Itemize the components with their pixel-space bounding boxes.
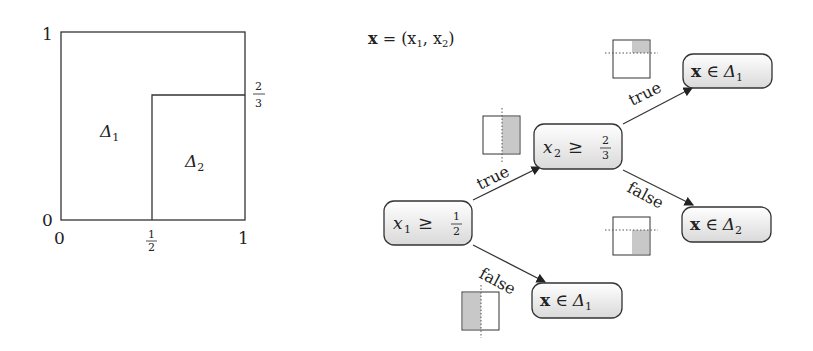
- partition-plot: 1 0 0 1 2 1 2 3 Δ1 Δ2: [42, 24, 265, 254]
- svg-text:x∈Δ2: x∈Δ2: [690, 214, 742, 237]
- svg-text:x: x: [393, 213, 403, 233]
- mini-region-top-right-icon: [605, 40, 658, 78]
- svg-text:1: 1: [453, 210, 460, 223]
- svg-text:x∈Δ1: x∈Δ1: [691, 61, 743, 84]
- svg-text:2: 2: [148, 241, 155, 254]
- svg-text:2: 2: [554, 147, 561, 160]
- y-tick-bottom: 0: [42, 210, 53, 230]
- mini-region-x1-lt-half-icon: [462, 285, 499, 338]
- svg-text:2: 2: [602, 134, 609, 147]
- tick-two-thirds: 2 3: [253, 80, 265, 110]
- svg-text:x: x: [543, 137, 553, 157]
- x-tick-left: 0: [54, 228, 65, 248]
- mini-region-bottom-right-icon: [605, 217, 658, 255]
- x-tick-half: 1 2: [146, 228, 157, 254]
- unit-square: [61, 32, 245, 220]
- region-delta2-label: Δ2: [184, 151, 204, 174]
- y-tick-top: 1: [42, 24, 53, 44]
- definition-text: x = (x1, x2): [368, 29, 455, 49]
- svg-text:2: 2: [453, 225, 460, 238]
- region-delta1-label: Δ1: [99, 121, 119, 144]
- root-node: x 1 ≥ 1 2: [384, 201, 472, 245]
- svg-text:x∈Δ1: x∈Δ1: [540, 290, 592, 313]
- edge-label-inner-false: false: [624, 178, 667, 213]
- svg-text:1: 1: [404, 223, 411, 236]
- x-tick-right: 1: [238, 228, 249, 248]
- svg-text:≥: ≥: [568, 136, 583, 157]
- leaf-node-delta1-top: x∈Δ1: [683, 54, 772, 88]
- edge-label-root-true: true: [473, 162, 512, 194]
- leaf-node-delta2: x∈Δ2: [682, 207, 771, 242]
- leaf-node-delta1-bottom: x∈Δ1: [532, 283, 622, 318]
- inner-node: x 2 ≥ 2 3: [534, 124, 622, 169]
- svg-text:1: 1: [148, 228, 155, 241]
- svg-text:3: 3: [602, 149, 609, 162]
- svg-text:2: 2: [255, 80, 262, 93]
- svg-text:≥: ≥: [418, 212, 433, 233]
- edge-label-inner-true: true: [625, 78, 664, 110]
- svg-text:3: 3: [255, 97, 262, 110]
- mini-region-x1-ge-half-icon: [483, 108, 520, 162]
- delta2-boundary: [152, 95, 245, 220]
